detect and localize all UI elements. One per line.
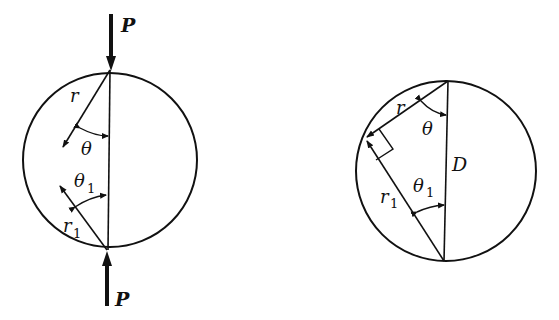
left-radius-r-label: r: [70, 85, 80, 106]
left-theta-label: θ: [81, 138, 92, 159]
right-theta1-subscript: 1: [426, 185, 434, 200]
bottom-force-label: P: [114, 288, 130, 310]
right-theta1-arc: [417, 205, 444, 212]
left-theta1-label: θ: [74, 170, 85, 191]
right-r1-label: r: [380, 186, 390, 207]
left-theta-arc: [80, 128, 108, 136]
top-force-arrow-icon: [106, 14, 116, 71]
left-theta1-subscript: 1: [87, 181, 95, 196]
diagram-canvas: P P r θ θ 1 r 1 D r r 1: [0, 0, 559, 320]
left-r1-subscript: 1: [73, 226, 81, 241]
right-angle-marker-icon: [376, 129, 393, 160]
right-diameter-line: [444, 81, 448, 261]
right-theta1-label: θ: [413, 175, 424, 196]
top-force-label: P: [120, 14, 136, 36]
left-panel: P P r θ θ 1 r 1: [23, 14, 197, 310]
right-diameter-label: D: [451, 153, 467, 175]
right-theta-label: θ: [422, 118, 433, 139]
left-diameter-line: [108, 70, 110, 250]
right-panel: D r r 1 θ θ 1: [356, 81, 536, 261]
bottom-force-arrow-icon: [102, 251, 112, 306]
right-r-label: r: [396, 97, 406, 118]
left-theta1-arc: [75, 195, 106, 207]
left-r1-label: r: [63, 215, 73, 236]
right-theta-arc: [421, 101, 446, 115]
right-r1-subscript: 1: [390, 196, 398, 211]
